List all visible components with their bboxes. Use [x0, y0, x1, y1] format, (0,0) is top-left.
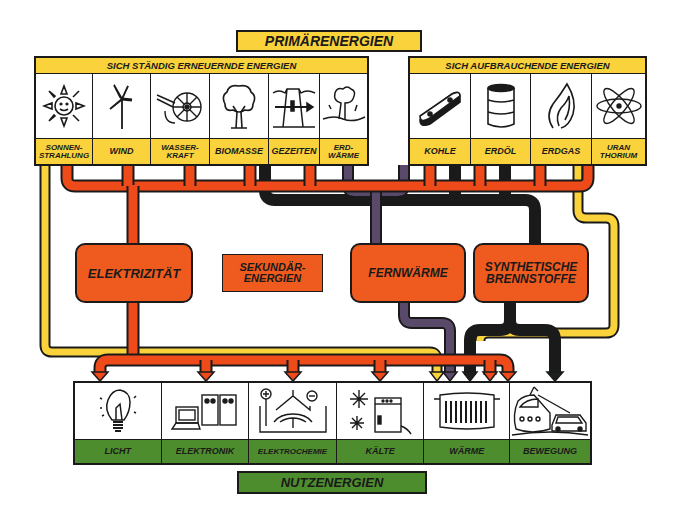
source-uranium: URAN THORIUM: [592, 74, 645, 164]
use-light: LICHT: [75, 383, 162, 463]
use-label: WÄRME: [424, 439, 509, 463]
source-solar: SONNEN- STRAHLUNG: [36, 74, 93, 164]
use-label: KÄLTE: [337, 439, 424, 463]
depleting-energies-group: SICH AUFBRAUCHENDE ENERGIEN KOHLE ERDÖL: [408, 56, 647, 166]
source-biomass: BIOMASSE: [210, 74, 269, 164]
tide-dam-icon: [269, 74, 319, 138]
hub-electricity: ELEKTRIZITÄT: [75, 243, 193, 303]
use-electronics: ELEKTRONIK: [162, 383, 250, 463]
wind-turbine-icon: [93, 74, 150, 138]
use-label: LICHT: [75, 439, 161, 463]
source-label: ERDÖL: [471, 138, 530, 164]
use-label: ELEKTROCHEMIE: [249, 439, 336, 463]
source-label: URAN THORIUM: [592, 138, 645, 164]
tree-icon: [210, 74, 268, 138]
source-label: SONNEN- STRAHLUNG: [36, 138, 92, 164]
hub-synthetic-fuels: SYNTHETISCHE BRENNSTOFFE: [473, 243, 589, 303]
useful-energies-title: NUTZENERGIEN: [237, 471, 427, 494]
radiator-icon: [424, 383, 509, 439]
train-car-icon: [510, 383, 590, 439]
primary-energies-title: PRIMÄRENERGIEN: [236, 30, 422, 52]
oil-barrel-icon: [471, 74, 530, 138]
use-heat: WÄRME: [424, 383, 510, 463]
secondary-energies-caption: SEKUNDÄR- ENERGIEN: [222, 254, 323, 292]
sun-icon: [36, 74, 92, 138]
use-label: ELEKTRONIK: [162, 439, 249, 463]
electrolysis-icon: [249, 383, 336, 439]
use-electrochemistry: ELEKTROCHEMIE: [249, 383, 337, 463]
source-gas: ERDGAS: [531, 74, 592, 164]
source-label: ERDGAS: [531, 138, 591, 164]
atom-icon: [592, 74, 645, 138]
depleting-heading: SICH AUFBRAUCHENDE ENERGIEN: [410, 58, 645, 74]
refrigerator-snowflake-icon: [337, 383, 424, 439]
source-coal: KOHLE: [410, 74, 471, 164]
coal-briquette-icon: [410, 74, 470, 138]
source-label: ERD- WÄRME: [320, 138, 367, 164]
use-motion: BEWEGUNG: [510, 383, 590, 463]
renewable-heading: SICH STÄNDIG ERNEUERNDE ENERGIEN: [36, 58, 367, 74]
light-bulb-icon: [75, 383, 161, 439]
geyser-icon: [320, 74, 367, 138]
source-label: BIOMASSE: [210, 138, 268, 164]
source-geothermal: ERD- WÄRME: [320, 74, 367, 164]
water-wheel-icon: [151, 74, 209, 138]
source-hydro: WASSER- KRAFT: [151, 74, 210, 164]
computer-icon: [162, 383, 249, 439]
use-label: BEWEGUNG: [510, 439, 590, 463]
useful-energies-row: LICHT ELEKTRONIK ELEKTROCHEMIE: [73, 381, 592, 465]
renewable-energies-group: SICH STÄNDIG ERNEUERNDE ENERGIEN SONNEN-…: [34, 56, 369, 166]
source-label: KOHLE: [410, 138, 470, 164]
source-tides: GEZEITEN: [269, 74, 320, 164]
source-wind: WIND: [93, 74, 151, 164]
source-label: WASSER- KRAFT: [151, 138, 209, 164]
gas-flame-icon: [531, 74, 591, 138]
source-label: WIND: [93, 138, 150, 164]
use-cold: KÄLTE: [337, 383, 425, 463]
hub-district-heat: FERNWÄRME: [350, 243, 466, 303]
source-oil: ERDÖL: [471, 74, 531, 164]
source-label: GEZEITEN: [269, 138, 319, 164]
